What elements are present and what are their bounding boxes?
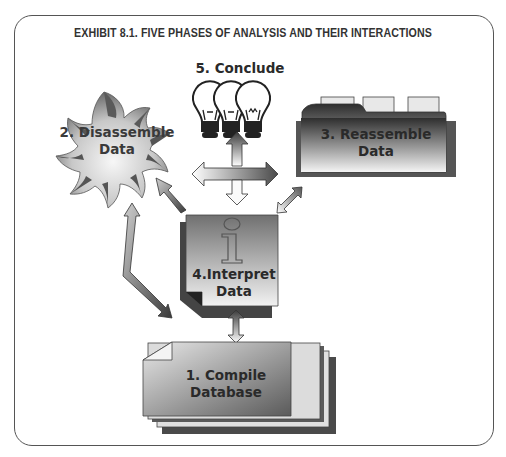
four-way-arrow-icon [192,132,278,205]
phase-1-subtitle: Database [176,384,276,401]
phase-1-title: 1. Compile [176,367,276,384]
double-arrow-disassemble-compile [123,203,172,318]
phase-3-label: 3. Reassemble Data [316,126,436,160]
light-bulbs-icon [193,81,270,137]
phase-4-label: 4.Interpret Data [192,266,276,300]
arrow-to-disassemble [156,178,186,213]
phase-5-title: 5. Conclude [195,60,284,76]
phase-4-subtitle: Data [192,283,276,300]
phase-4-title: 4.Interpret [192,266,276,283]
phase-2-subtitle: Data [52,141,182,158]
phase-5-label: 5. Conclude [190,60,290,77]
phase-3-subtitle: Data [316,143,436,160]
phase-3-title: 3. Reassemble [316,126,436,143]
phase-2-label: 2. Disassemble Data [52,124,182,158]
phase-1-label: 1. Compile Database [176,367,276,401]
double-arrow-interpret-reassemble [277,187,302,213]
phase-2-title: 2. Disassemble [52,124,182,141]
